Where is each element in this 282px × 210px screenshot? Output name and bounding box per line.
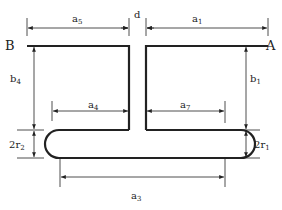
label-a3: a3: [131, 190, 141, 203]
label-b4: b4: [10, 73, 21, 86]
point-b-label: B: [5, 38, 15, 53]
label-2r2: 2r2: [9, 139, 25, 152]
t-loop-diagram: B A a5 d a1 b4 b1 a4 a7 2r2 2r1 a3: [0, 0, 282, 210]
label-a7: a7: [180, 99, 190, 112]
label-d: d: [134, 9, 141, 20]
label-b1: b1: [250, 73, 261, 86]
right-arm: [146, 46, 268, 130]
dimension-lines: [17, 18, 268, 187]
point-a-label: A: [265, 38, 276, 53]
labels: B A a5 d a1 b4 b1 a4 a7 2r2 2r1 a3: [5, 9, 276, 203]
label-a5: a5: [72, 13, 82, 26]
label-2r1: 2r1: [254, 139, 270, 152]
label-a4: a4: [88, 99, 99, 112]
left-arm: [27, 46, 129, 130]
bottom-capsule: [45, 130, 255, 158]
label-a1: a1: [192, 13, 202, 26]
conductor-shape: [27, 46, 268, 158]
